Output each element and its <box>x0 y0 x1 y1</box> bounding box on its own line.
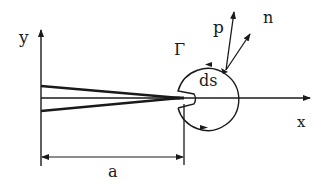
diagram-canvas <box>0 0 326 184</box>
arc-element-label: ds <box>199 73 217 89</box>
y-axis-label: y <box>19 29 29 46</box>
contour-arrow-top-icon <box>205 62 212 67</box>
p-vector <box>226 12 234 70</box>
crack-upper-face <box>41 86 180 98</box>
x-axis-label: x <box>297 115 305 130</box>
contour-arrow-bottom-icon <box>200 125 208 130</box>
normal-vector-label: n <box>263 10 273 26</box>
traction-vector-label: p <box>213 19 224 36</box>
crack-lower-face <box>41 98 180 111</box>
contour-label: Γ <box>174 42 185 58</box>
crack-diagram: y Γ p n ds x a <box>0 0 326 184</box>
crack-length-label: a <box>108 164 118 180</box>
